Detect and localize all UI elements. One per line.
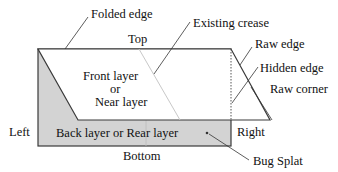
- front-layer-label-2: or: [110, 82, 121, 96]
- right-label: Right: [237, 125, 265, 139]
- bug-splat-dot: [206, 132, 209, 135]
- folded-edge-leader: [65, 17, 88, 49]
- front-layer-label-3: Near layer: [95, 95, 148, 109]
- left-label: Left: [9, 125, 30, 139]
- existing-crease-label: Existing crease: [193, 16, 269, 30]
- fold-diagram: Folded edge Existing crease Top Raw edge…: [0, 0, 338, 172]
- raw-edge-label: Raw edge: [255, 37, 305, 51]
- top-label: Top: [128, 32, 147, 46]
- raw-corner-label: Raw corner: [270, 82, 329, 96]
- front-layer: [38, 49, 270, 120]
- folded-edge-label: Folded edge: [91, 7, 153, 21]
- hidden-edge-label: Hidden edge: [260, 61, 324, 75]
- raw-edge-leader: [240, 47, 252, 65]
- front-layer-label-1: Front layer: [83, 69, 139, 83]
- back-layer-label: Back layer or Rear layer: [56, 126, 179, 140]
- bottom-label: Bottom: [123, 149, 161, 163]
- bug-splat-label: Bug Splat: [253, 154, 303, 168]
